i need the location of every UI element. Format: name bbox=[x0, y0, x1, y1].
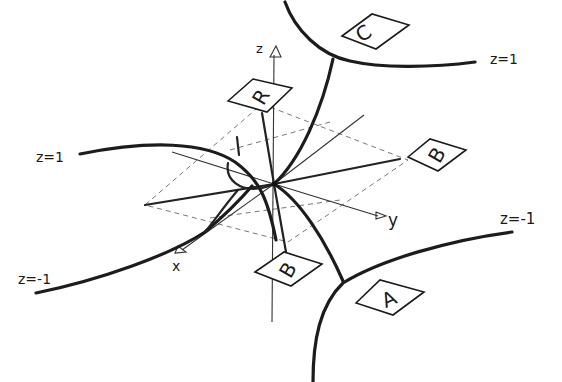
z-axis-label: z bbox=[256, 41, 263, 56]
curve-z-1-right bbox=[313, 232, 512, 382]
curve-label-z-1-right: z=-1 bbox=[500, 210, 535, 228]
y-axis-label: y bbox=[388, 210, 398, 230]
curve-label-z1-left: z=1 bbox=[36, 149, 64, 165]
diagram-canvas: C R B B A z y x z=1 z=1 z=-1 z=-1 bbox=[0, 0, 562, 382]
guide-plane bbox=[145, 104, 408, 242]
curve-label-z-1-left: z=-1 bbox=[18, 271, 51, 287]
label-A: A bbox=[356, 280, 424, 315]
label-B-bottom: B bbox=[255, 252, 322, 286]
curve-z-1-left bbox=[36, 186, 252, 293]
curve-label-z1-right: z=1 bbox=[490, 51, 518, 67]
sketch-svg: C R B B A z y x z=1 z=1 z=-1 z=-1 bbox=[0, 0, 562, 382]
z-axis-arrow-icon bbox=[270, 46, 281, 57]
origin-point bbox=[272, 182, 277, 187]
label-R: R bbox=[228, 79, 292, 112]
label-B-right: B bbox=[408, 139, 466, 171]
curve-lower-loop bbox=[205, 190, 238, 232]
curve-upper-branch bbox=[274, 59, 333, 184]
x-axis-label: x bbox=[172, 258, 180, 274]
label-C: C bbox=[342, 14, 409, 49]
y-axis bbox=[274, 184, 386, 219]
